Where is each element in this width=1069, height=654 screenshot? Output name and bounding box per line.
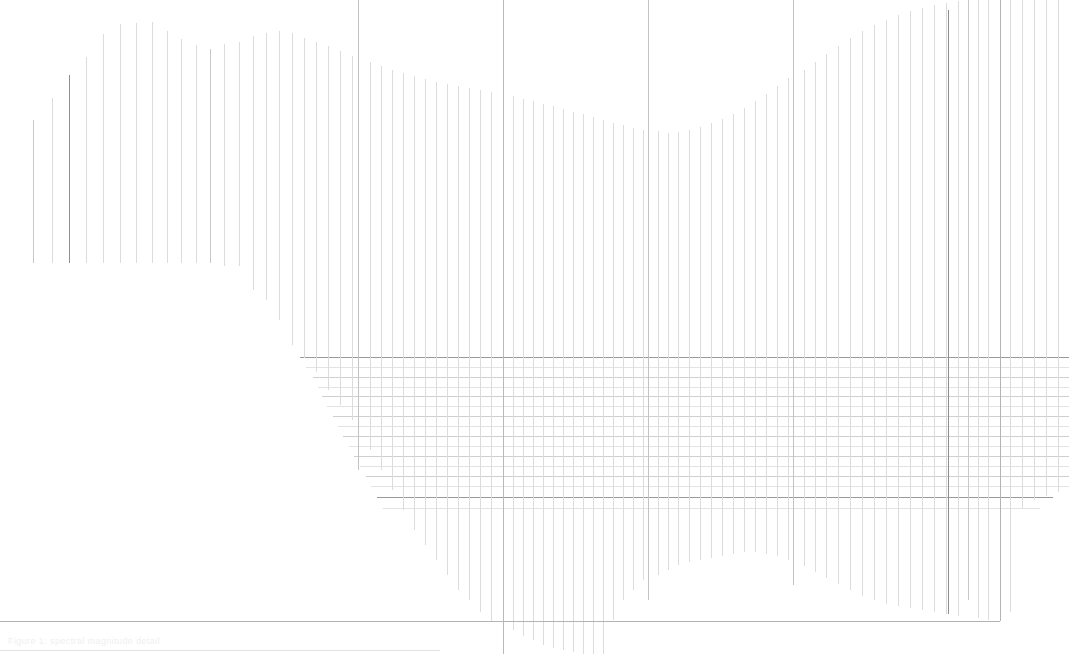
axis-rule-vertical [968,0,969,600]
figure-caption: Figure 1: spectral magnitude detail [8,636,160,646]
axis-rule-vertical [648,0,649,600]
axis-rule-vertical [503,0,504,654]
axis-rule-vertical [358,0,359,470]
axis-rule-vertical [793,0,794,585]
plot-frame-bottom-outer [0,650,440,651]
chart-canvas: Figure 1: spectral magnitude detail [0,0,1069,654]
plot-frame-right [1000,0,1001,621]
plot-frame-bottom [0,621,1000,622]
vertical-axis-rules [0,0,1069,654]
